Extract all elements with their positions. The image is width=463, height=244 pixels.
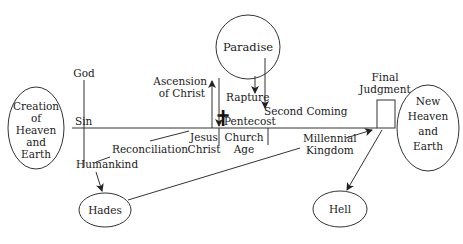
hades-to-millennial-line	[128, 148, 300, 200]
creation-line-5: Earth	[21, 148, 51, 160]
creation-line-4: and	[26, 136, 46, 148]
creation-line-1: Creation	[13, 100, 59, 112]
sin-label: Sin	[75, 115, 93, 127]
ascension-label-2: of Christ	[159, 87, 206, 99]
new-heaven-line-4: Earth	[413, 140, 443, 152]
hell-node: Hell	[313, 191, 367, 227]
church-label: Church	[224, 131, 263, 143]
reconciliation-label: Reconciliation	[112, 143, 188, 155]
age-label: Age	[233, 143, 255, 155]
creation-line-2: of	[31, 112, 42, 124]
humankind-to-hades-arrow	[96, 172, 102, 191]
paradise-node: Paradise	[216, 15, 280, 79]
humankind-label: Humankind	[76, 158, 138, 170]
ascension-label-1: Ascension	[152, 75, 207, 87]
final-judgment-box	[377, 100, 395, 128]
final-label: Final	[371, 71, 399, 83]
new-heaven-line-3: and	[418, 125, 438, 137]
millennial-label: Millennial	[303, 132, 357, 144]
jesus-label: Jesus	[189, 131, 218, 143]
new-heaven-line-1: New	[416, 95, 440, 107]
christ-label: Christ	[188, 143, 222, 155]
hades-label: Hades	[88, 204, 122, 216]
theology-timeline-diagram: Creation of Heaven and Earth God Sin Hum…	[0, 0, 463, 244]
rapture-label: Rapture	[226, 91, 269, 103]
new-heaven-line-2: Heaven	[408, 110, 449, 122]
judgment-label: Judgment	[358, 83, 411, 95]
hades-node: Hades	[79, 193, 131, 227]
new-heaven-node: New Heaven and Earth	[397, 85, 459, 171]
creation-line-3: Heaven	[16, 124, 57, 136]
second-coming-label: Second Coming	[264, 105, 348, 117]
hell-label: Hell	[329, 203, 352, 215]
reconciliation-line-2	[150, 131, 189, 141]
god-label: God	[73, 67, 95, 79]
paradise-label: Paradise	[223, 40, 273, 54]
creation-node: Creation of Heaven and Earth	[8, 87, 64, 169]
kingdom-label: Kingdom	[306, 144, 354, 156]
